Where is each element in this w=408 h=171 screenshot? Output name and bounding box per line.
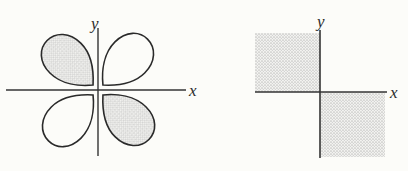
rose-y-axis-label: y	[89, 14, 99, 33]
fourth-quadrant-square	[320, 92, 385, 157]
shaded-squares-figure: x y	[255, 12, 398, 158]
rose-x-axis-label: x	[188, 81, 197, 100]
figure-canvas: x y x y	[0, 0, 408, 171]
petal-upper-right	[87, 24, 163, 100]
petal-upper-left	[32, 25, 108, 101]
rose-curve-figure: x y	[6, 14, 197, 156]
petal-lower-right	[88, 79, 164, 155]
squares-x-axis-label: x	[389, 83, 398, 102]
squares-y-axis-label: y	[315, 12, 325, 31]
petal-lower-left	[33, 80, 109, 156]
second-quadrant-square	[255, 33, 320, 92]
